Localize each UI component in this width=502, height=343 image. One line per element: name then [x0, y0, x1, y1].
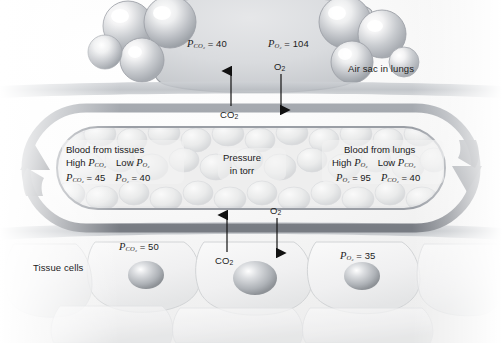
right-vignette: [412, 0, 502, 343]
gas-exchange-diagram: PCO₂ = 40 PO₂ = 104 O2 CO2 Air sac in lu…: [0, 0, 502, 343]
blood-from-lungs-heading: Blood from lungs: [330, 143, 420, 156]
blood-from-tissues-values: PCO₂ = 45PO₂ = 40: [66, 171, 150, 186]
tissue-po2-label: PO₂ = 35: [340, 250, 375, 264]
blood-from-tissues-qualitative: High PCO₂Low PO₂: [66, 156, 150, 171]
pressure-units-label: Pressure in torr: [223, 151, 261, 177]
o2-into-tissue-label: O2: [270, 205, 281, 219]
tissue-cells-region-label: Tissue cells: [33, 262, 83, 274]
air-sac-region-label: Air sac in lungs: [348, 63, 414, 75]
o2-into-blood-label: O2: [274, 61, 285, 75]
co2-into-airsac-label: CO2: [220, 109, 238, 123]
lung-po2-label: PO₂ = 104: [268, 38, 309, 52]
blood-from-lungs-block: Blood from lungs High PO₂Low PCO₂ PO₂ = …: [330, 143, 420, 187]
blood-from-tissues-block: Blood from tissues High PCO₂Low PO₂ PCO₂…: [66, 143, 150, 187]
co2-into-blood-label: CO2: [215, 255, 233, 269]
blood-from-lungs-qualitative: High PO₂Low PCO₂: [330, 156, 420, 171]
lung-pco2-label: PCO₂ = 40: [187, 38, 227, 52]
tissue-pco2-label: PCO₂ = 50: [119, 241, 159, 255]
blood-from-tissues-heading: Blood from tissues: [66, 143, 150, 156]
blood-from-lungs-values: PO₂ = 95PCO₂ = 40: [330, 171, 420, 186]
